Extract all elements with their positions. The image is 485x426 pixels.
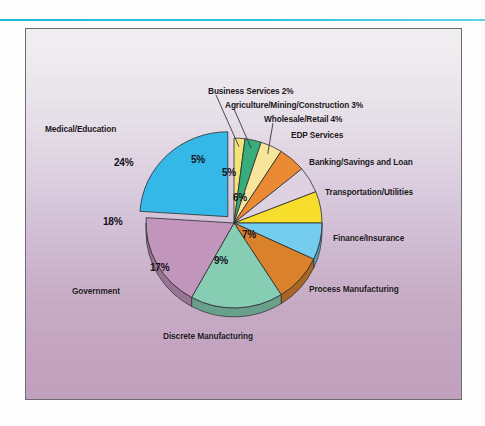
label-edp-services: EDP Services [291, 131, 343, 140]
value-transportation-utilities: 6% [233, 192, 247, 203]
value-finance-insurance: 7% [242, 229, 256, 240]
figure-page: Business Services 2% Agriculture/Mining/… [0, 0, 485, 426]
label-agriculture-mining-construction: Agriculture/Mining/Construction 3% [225, 101, 363, 110]
chart-panel: Business Services 2% Agriculture/Mining/… [25, 28, 462, 400]
label-discrete-manufacturing: Discrete Manufacturing [163, 332, 253, 341]
label-finance-insurance: Finance/Insurance [333, 234, 404, 243]
pie-slice [140, 132, 228, 217]
value-medical-education: 24% [114, 157, 133, 168]
value-process-manufacturing: 9% [214, 255, 228, 266]
label-government: Government [72, 287, 120, 296]
value-discrete-manufacturing: 17% [150, 262, 169, 273]
label-banking-savings-and-loan: Banking/Savings and Loan [309, 158, 413, 167]
label-process-manufacturing: Process Manufacturing [309, 285, 399, 294]
label-wholesale-retail: Wholesale/Retail 4% [264, 115, 342, 124]
label-medical-education: Medical/Education [45, 125, 116, 134]
value-banking-savings-and-loan: 5% [222, 167, 236, 178]
label-transportation-utilities: Transportation/Utilities [325, 188, 413, 197]
value-edp-services: 5% [191, 154, 205, 165]
pie-chart-svg [26, 29, 462, 400]
page-top-rule [0, 19, 485, 21]
value-government: 18% [103, 216, 122, 227]
label-business-services: Business Services 2% [208, 87, 294, 96]
